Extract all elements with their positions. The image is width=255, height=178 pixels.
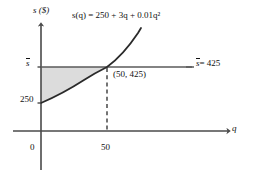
y-tick-label-250: 250 bbox=[20, 95, 34, 104]
y-tick-sbar-symbol: s bbox=[26, 59, 30, 68]
y-axis-title: s ($) bbox=[33, 6, 49, 15]
chart-canvas bbox=[0, 0, 255, 178]
x-tick-label-0: 0 bbox=[30, 143, 35, 152]
intersection-point-label: (50, 425) bbox=[113, 70, 146, 79]
sbar-line-label: s= 425 bbox=[196, 59, 220, 68]
supply-curve-figure: s ($) q s(q) = 250 + 3q + 0.01q² s 250 0… bbox=[0, 0, 255, 178]
y-tick-label-sbar: s bbox=[26, 59, 30, 68]
y-axis-title-text: s ($) bbox=[33, 5, 49, 15]
sbar-line-symbol: s bbox=[196, 59, 200, 68]
sbar-line-value: = 425 bbox=[200, 58, 221, 68]
curve-equation-label: s(q) = 250 + 3q + 0.01q² bbox=[72, 11, 160, 20]
x-axis-title: q bbox=[232, 124, 237, 133]
x-tick-label-50: 50 bbox=[101, 143, 110, 152]
